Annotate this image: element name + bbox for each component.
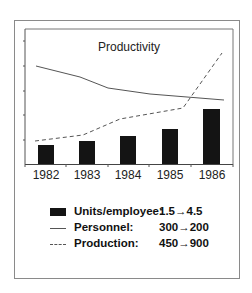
legend-item-personnel: Personnel: 300→200 — [50, 221, 230, 235]
bar-1982 — [38, 145, 54, 164]
legend-value: 300→200 — [159, 221, 209, 233]
x-tick-label-1986: 1986 — [199, 168, 226, 182]
legend-solid-line-icon — [50, 228, 66, 229]
legend-dashed-line-icon — [50, 244, 66, 245]
legend-value: 450→900 — [159, 237, 209, 249]
legend-item-production: Production: 450→900 — [50, 237, 230, 251]
chart-title: Productivity — [0, 40, 252, 54]
bars-units-per-employee — [38, 109, 220, 164]
legend-item-units-per-employee: Units/employee: 1.5→4.5 — [50, 205, 230, 219]
x-tick-label-1983: 1983 — [74, 168, 101, 182]
x-tick-label-1985: 1985 — [157, 168, 184, 182]
x-tick-label-1984: 1984 — [115, 168, 142, 182]
x-tick-label-1982: 1982 — [33, 168, 60, 182]
legend-label: Units/employee: — [74, 205, 163, 217]
legend-bar-swatch-icon — [50, 208, 66, 216]
line-personnel — [36, 66, 224, 100]
legend-label: Personnel: — [74, 221, 133, 233]
bar-1984 — [120, 136, 136, 164]
line-production — [35, 53, 222, 141]
bar-1985 — [162, 129, 178, 164]
bar-1983 — [79, 141, 95, 164]
legend-label: Production: — [74, 237, 139, 249]
legend-value: 1.5→4.5 — [159, 205, 202, 217]
bar-1986 — [203, 109, 220, 164]
